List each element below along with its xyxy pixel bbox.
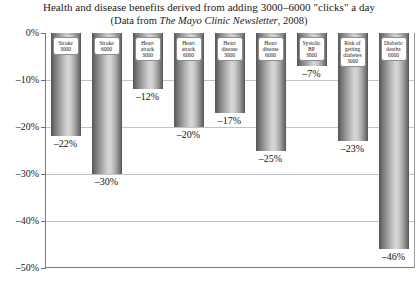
bar-cap [93, 33, 121, 35]
bar-category-label: Heart attack3000 [135, 37, 161, 61]
bar-value-label: –23% [332, 144, 374, 154]
bar-category-label: Diabetic deaths6000 [381, 37, 407, 61]
bar-category-label: Heart disease3000 [217, 37, 243, 61]
category-name: Heart disease [221, 40, 237, 52]
bar-cap [257, 33, 285, 35]
bar-category-label: Systolic BP3000 [299, 37, 325, 61]
category-dose: 3000 [219, 52, 241, 58]
category-dose: 3000 [55, 46, 77, 52]
bar-value-label: –46% [373, 252, 415, 262]
category-name: Diabetic deaths [384, 40, 403, 52]
bar-chart: Health and disease benefits derived from… [0, 0, 418, 285]
category-name: Heart disease [262, 40, 278, 52]
bars-layer: Stroke3000–22%Stroke6000–30%Heart attack… [0, 0, 418, 285]
category-name: Risk of getting diabetes [343, 40, 361, 59]
bar-category-label: Risk of getting diabetes3000 [340, 37, 366, 67]
bar [379, 33, 409, 249]
bar-cap [175, 33, 203, 35]
category-dose: 6000 [260, 52, 282, 58]
bar-cap [380, 33, 408, 35]
bar-value-label: –30% [86, 177, 128, 187]
category-dose: 3000 [301, 52, 323, 58]
bar-value-label: –25% [250, 154, 292, 164]
bar-value-label: –12% [127, 92, 169, 102]
category-dose: 3000 [342, 58, 364, 64]
bar-value-label: –7% [291, 69, 333, 79]
category-dose: 3000 [137, 52, 159, 58]
bar-value-label: –17% [209, 116, 251, 126]
bar-category-label: Stroke6000 [94, 37, 120, 55]
bar-category-label: Heart attack6000 [176, 37, 202, 61]
category-name: Stroke [99, 40, 114, 46]
category-name: Heart attack [141, 40, 154, 52]
bar-category-label: Heart disease6000 [258, 37, 284, 61]
category-name: Stroke [58, 40, 73, 46]
category-dose: 6000 [383, 52, 405, 58]
bar-cap [298, 33, 326, 35]
bar-value-label: –20% [168, 130, 210, 140]
category-dose: 6000 [96, 46, 118, 52]
bar-category-label: Stroke3000 [53, 37, 79, 55]
bar-cap [134, 33, 162, 35]
category-dose: 6000 [178, 52, 200, 58]
category-name: Systolic BP [302, 40, 320, 52]
bar-value-label: –22% [45, 139, 87, 149]
bar-cap [216, 33, 244, 35]
bar-cap [339, 33, 367, 35]
bar-cap [52, 33, 80, 35]
category-name: Heart attack [182, 40, 195, 52]
